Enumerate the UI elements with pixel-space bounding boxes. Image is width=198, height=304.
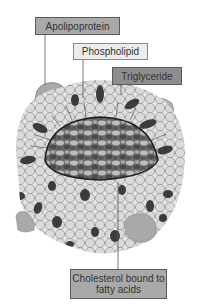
cholesterol-label: Cholesterol bound to fatty acids bbox=[70, 269, 167, 299]
phospholipid-label: Phospholipid bbox=[73, 43, 148, 60]
triglyceride-label: Triglyceride bbox=[112, 67, 182, 85]
apolipoprotein-label: Apolipoprotein bbox=[35, 17, 120, 35]
